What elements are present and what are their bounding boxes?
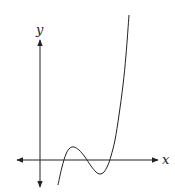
x-axis-label: x: [162, 152, 170, 167]
y-axis-label: y: [35, 22, 44, 37]
polynomial-graph: y x: [0, 0, 175, 194]
